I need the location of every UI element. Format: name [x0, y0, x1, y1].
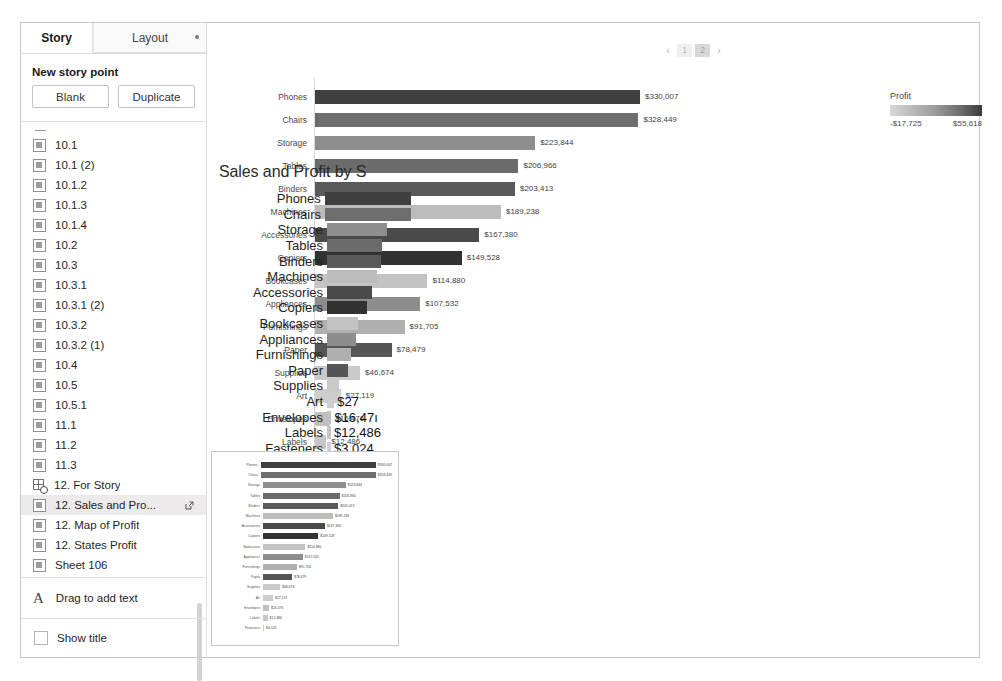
bar-row[interactable]: Storage$223,844 [237, 131, 757, 154]
overlay-bar [327, 348, 351, 361]
thumbnail-bar [263, 564, 297, 570]
blank-button[interactable]: Blank [32, 85, 109, 108]
overlay-bar-category-label: Appliances [219, 333, 327, 346]
bar-row[interactable]: Phones$330,007 [237, 85, 757, 108]
overlay-bar-row: Paper [219, 363, 414, 379]
story-point-item[interactable]: 11.1 [21, 415, 206, 435]
show-title-checkbox[interactable] [34, 631, 48, 645]
overlay-bar [327, 270, 377, 283]
sheet-icon [33, 439, 46, 452]
story-point-item[interactable]: 10.5 [21, 375, 206, 395]
bar-row[interactable]: Chairs$328,449 [237, 108, 757, 131]
overlay-bar-value-label: $27 [337, 394, 359, 409]
story-point-item[interactable]: 10.1.2 [21, 175, 206, 195]
thumbnail-bar [263, 605, 269, 611]
thumbnail-bar [263, 544, 305, 550]
overlay-bar-row: Appliances [219, 331, 414, 347]
story-point-label: 10.4 [55, 359, 77, 371]
bar-value-label: $114,880 [432, 276, 465, 285]
story-point-item[interactable]: 10.4 [21, 355, 206, 375]
story-point-item[interactable]: 12. States Profit [21, 535, 206, 555]
story-point-label: 10.3.1 [55, 279, 87, 291]
sheet-icon [33, 339, 46, 352]
thumbnail-bar-row: Bookcases$114,880 [218, 542, 392, 552]
bar-value-label: $330,007 [645, 92, 678, 101]
sidebar-scrollbar-track[interactable] [199, 173, 204, 533]
tableau-story-window: Story Layout New story point Blank Dupli… [20, 22, 980, 658]
sheet-icon [33, 219, 46, 232]
story-point-item[interactable]: 10.1 [21, 135, 206, 155]
overlay-bar-row: Envelopes$16,47ı [219, 409, 414, 425]
thumbnail-bar-row: Binders$203,413 [218, 501, 392, 511]
story-point-item[interactable]: 10.5.1 [21, 395, 206, 415]
sheet-icon [33, 519, 46, 532]
story-point-label: 12. For Story [54, 479, 120, 491]
story-point-item[interactable]: 10.1.4 [21, 215, 206, 235]
story-point-item[interactable]: 12. Map of Profit [21, 515, 206, 535]
bar[interactable] [314, 113, 638, 127]
drag-to-add-text-item[interactable]: A Drag to add text [21, 578, 206, 618]
story-point-item[interactable]: 10.3.1 (2) [21, 295, 206, 315]
thumbnail-bar-value-label: $91,705 [299, 565, 311, 569]
bar[interactable] [314, 90, 640, 104]
overlay-bar-category-label: Labels [219, 426, 327, 439]
overlay-bar-category-label: Furnishings [219, 348, 327, 361]
story-point-label: 11.3 [55, 459, 77, 471]
story-point-item[interactable]: 10.3 [21, 255, 206, 275]
thumbnail-bar-category-label: Phones [218, 463, 261, 467]
overlay-bar-row: Art$27 [219, 394, 414, 410]
thumbnail-bar-rows: Phones$330,007Chairs$328,449Storage$223,… [218, 460, 392, 633]
sheet-icon [33, 539, 46, 552]
story-point-label: 12. Map of Profit [55, 519, 139, 531]
sheet-icon [33, 279, 46, 292]
overlay-bar [327, 426, 331, 439]
text-tool-icon: A [33, 590, 44, 607]
show-title-row[interactable]: Show title [21, 619, 206, 657]
bar[interactable] [314, 136, 535, 150]
story-point-item[interactable]: 10.3.2 [21, 315, 206, 335]
pager-page-1[interactable]: 1 [677, 44, 692, 57]
pager-page-2[interactable]: 2 [695, 44, 710, 57]
overlay-bar [325, 192, 411, 205]
thumbnail-bar [263, 482, 346, 488]
story-point-item[interactable]: 11.3 [21, 455, 206, 475]
overlay-bar-category-label: Paper [219, 364, 327, 377]
story-point-label: 11.1 [55, 419, 77, 431]
overlay-bar [327, 223, 387, 236]
dashboard-icon [33, 479, 45, 491]
story-point-item[interactable]: 10.2 [21, 235, 206, 255]
story-point-item[interactable]: 10.3.2 (1) [21, 335, 206, 355]
thumbnail-bar-row: Accessories$167,380 [218, 521, 392, 531]
thumbnail-bar-category-label: Supplies [218, 585, 263, 589]
overlay-bar-rows: PhonesChairsStorageTablesBindersMachines… [219, 191, 414, 456]
chart-thumbnail-panel[interactable]: Phones$330,007Chairs$328,449Storage$223,… [211, 451, 399, 646]
tab-layout[interactable]: Layout [93, 23, 206, 53]
thumbnail-bar [263, 503, 338, 509]
bar-category-label: Chairs [237, 115, 314, 125]
story-point-item[interactable]: 12. Sales and Pro... [21, 495, 206, 515]
thumbnail-bar-value-label: $16,476 [271, 606, 283, 610]
pager-next-button[interactable]: › [713, 43, 725, 57]
external-link-icon[interactable] [185, 500, 194, 509]
sheet-icon [33, 299, 46, 312]
tab-story[interactable]: Story [21, 23, 93, 53]
overlay-bar-category-label: Copiers [219, 301, 327, 314]
legend-min-label: -$17,725 [890, 119, 922, 128]
story-point-item[interactable]: 11.2 [21, 435, 206, 455]
overlay-bar-row: Furnishings [219, 347, 414, 363]
story-point-item[interactable]: 10.1.3 [21, 195, 206, 215]
story-point-item[interactable]: 10.3.1 [21, 275, 206, 295]
bar-track: $223,844 [314, 136, 757, 150]
thumbnail-bar-category-label: Paper [218, 575, 263, 579]
thumbnail-bar [263, 493, 340, 499]
drag-handle-icon[interactable] [35, 130, 46, 131]
sheet-icon [33, 419, 46, 432]
sheet-icon [33, 179, 46, 192]
thumbnail-bar [263, 625, 264, 631]
story-point-item[interactable]: 12. For Story [21, 475, 206, 495]
thumbnail-bar-category-label: Copiers [218, 534, 263, 538]
duplicate-button[interactable]: Duplicate [118, 85, 195, 108]
pager-prev-button[interactable]: ‹ [662, 43, 674, 57]
thumbnail-bar-row: Envelopes$16,476 [218, 603, 392, 613]
story-point-item[interactable]: 10.1 (2) [21, 155, 206, 175]
